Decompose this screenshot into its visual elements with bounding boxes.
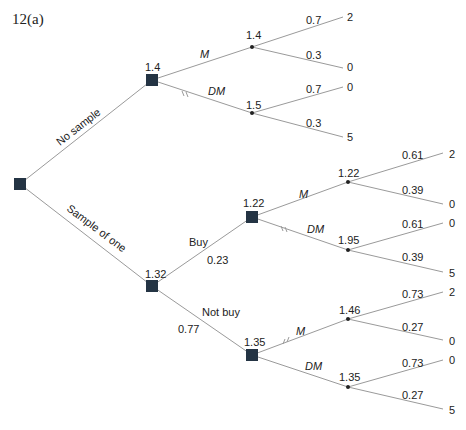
edge-notbuy-dm-o2 [348, 387, 443, 409]
label-no-sample: No sample [54, 106, 103, 148]
chance-node [250, 45, 254, 49]
payoff: 0 [449, 354, 455, 366]
decision-node-no-sample [146, 74, 158, 86]
value-notbuy-m-chance: 1.46 [339, 304, 360, 316]
edge-buy-dm [252, 217, 348, 250]
decision-node-sample [146, 280, 158, 292]
value-ns-dm-chance: 1.5 [246, 99, 261, 111]
value-buy-m-chance: 1.22 [338, 167, 359, 179]
edge-no-sample [20, 80, 152, 184]
prob: 0.39 [402, 251, 423, 263]
prob: 0.39 [402, 184, 423, 196]
value-sample: 1.32 [145, 268, 166, 280]
figure-title: 12(a) [12, 11, 44, 28]
label-buy-m: M [299, 188, 309, 200]
edge-notbuy-dm-o1 [348, 360, 443, 387]
payoff: 5 [347, 131, 353, 143]
chance-node [346, 248, 350, 252]
payoff: 0 [449, 217, 455, 229]
prob: 0.61 [402, 149, 423, 161]
label-buy: Buy [189, 236, 208, 248]
payoff: 2 [449, 286, 455, 298]
prob: 0.3 [306, 49, 321, 61]
value-ns-m-chance: 1.4 [246, 29, 261, 41]
edge-ns-dm [152, 80, 252, 113]
decision-node-not-buy [246, 349, 258, 361]
edge-sample-of-one [20, 184, 152, 286]
payoff: 5 [449, 267, 455, 279]
edge-notbuy-dm [252, 355, 348, 387]
prob: 0.27 [402, 389, 423, 401]
value-no-sample: 1.4 [145, 61, 160, 73]
edge-buy [152, 217, 252, 286]
prob-not-buy: 0.77 [178, 323, 199, 335]
outcome-probabilities: 0.7 0.3 0.7 0.3 0.61 0.39 0.61 0.39 0.73… [306, 14, 423, 401]
payoff: 2 [449, 148, 455, 160]
prob: 0.73 [402, 288, 423, 300]
edge-ns-m-o1 [252, 17, 343, 47]
payoff: 0 [347, 61, 353, 73]
prune-mark-icon [283, 337, 289, 344]
label-ns-m: M [200, 48, 210, 60]
label-notbuy-dm: DM [305, 360, 323, 372]
payoffs: 2 0 0 5 2 0 0 5 2 0 0 5 [347, 11, 455, 416]
payoff: 0 [347, 81, 353, 93]
prob: 0.7 [306, 83, 321, 95]
value-not-buy: 1.35 [244, 336, 265, 348]
chance-node [346, 180, 350, 184]
payoff: 0 [449, 198, 455, 210]
value-buy-dm-chance: 1.95 [338, 234, 359, 246]
prob-buy: 0.23 [207, 254, 228, 266]
value-buy: 1.22 [243, 197, 264, 209]
label-sample-of-one: Sample of one [65, 202, 129, 254]
payoff: 0 [449, 335, 455, 347]
edge-not-buy [152, 286, 252, 355]
label-not-buy: Not buy [202, 306, 240, 318]
label-buy-dm: DM [307, 223, 325, 235]
decision-node-buy [246, 211, 258, 223]
root-decision-node [14, 178, 26, 190]
prob: 0.61 [402, 218, 423, 230]
prob: 0.73 [402, 357, 423, 369]
decision-tree: 12(a) [0, 0, 466, 430]
edge-ns-m-o2 [252, 47, 343, 68]
chance-node [346, 317, 350, 321]
value-notbuy-dm-chance: 1.35 [339, 371, 360, 383]
edge-buy-m-o1 [348, 153, 443, 182]
chance-node [346, 385, 350, 389]
payoff: 5 [449, 404, 455, 416]
prob: 0.7 [306, 14, 321, 26]
edge-ns-dm-o1 [252, 87, 343, 113]
prob: 0.27 [402, 321, 423, 333]
label-ns-dm: DM [208, 85, 226, 97]
edge-notbuy-m-o2 [348, 319, 443, 340]
edge-buy-m-o2 [348, 182, 443, 204]
prob: 0.3 [306, 117, 321, 129]
edge-buy-dm-o2 [348, 250, 443, 272]
chance-node [250, 111, 254, 115]
edge-notbuy-m-o1 [348, 292, 443, 319]
label-notbuy-m: M [296, 325, 306, 337]
edge-buy-dm-o1 [348, 223, 443, 250]
payoff: 2 [347, 11, 353, 23]
edge-ns-dm-o2 [252, 113, 343, 137]
